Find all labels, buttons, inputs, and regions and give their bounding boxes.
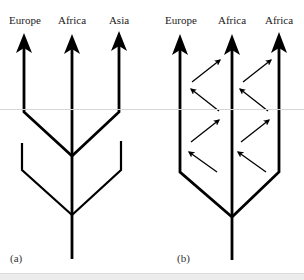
gene-flow-arrow	[191, 89, 219, 111]
panel-a-extinct-right-branch	[72, 141, 121, 215]
diagram-canvas	[0, 0, 304, 280]
bottom-edge-strip	[0, 273, 304, 280]
panel-b-label-africa-1: Africa	[218, 14, 246, 26]
panel-b-label-africa-2: Africa	[265, 14, 293, 26]
panel-b-caption: (b)	[177, 252, 190, 264]
panel-a-europe-branch	[24, 40, 72, 156]
panel-a-tree	[16, 31, 127, 259]
panel-a-label-asia: Asia	[109, 14, 129, 26]
panel-a-caption: (a)	[10, 252, 22, 264]
panel-a-label-europe: Europe	[9, 14, 41, 26]
panel-b-right-branch	[232, 42, 279, 217]
gene-flow-arrow	[240, 89, 268, 111]
gene-flow-arrow	[192, 60, 220, 82]
gene-flow-arrow	[241, 120, 269, 142]
gene-flow-arrow	[189, 152, 217, 172]
panel-a-label-africa: Africa	[58, 14, 86, 26]
gene-flow-arrow	[191, 120, 219, 142]
panel-b-label-europe: Europe	[165, 14, 197, 26]
panel-a-asia-branch	[72, 40, 119, 156]
panel-a-extinct-left-branch	[22, 143, 72, 215]
diagram-figure: Europe Africa Asia Europe Africa Africa …	[0, 0, 304, 280]
scan-hairline-divider	[0, 109, 304, 110]
gene-flow-arrow	[238, 152, 266, 172]
gene-flow-arrow	[243, 60, 271, 82]
panel-b-tree	[172, 32, 287, 260]
panel-b-gene-flow-arrows	[189, 60, 271, 172]
